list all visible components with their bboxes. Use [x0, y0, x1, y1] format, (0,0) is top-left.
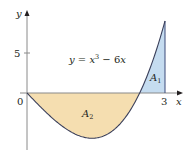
x-tick-label-0: 0	[17, 96, 23, 107]
y-tick-label-5: 5	[14, 48, 20, 59]
y-axis-label: y	[15, 8, 22, 19]
function-label: y = x3 − 6x	[68, 53, 126, 65]
y-axis-arrow-icon	[25, 10, 30, 16]
x-axis-label: x	[176, 96, 182, 107]
x-tick-label-3: 3	[161, 96, 167, 107]
area-plot: y 5 0 3 x y = x3 − 6x A1 A2	[0, 0, 191, 159]
x-axis-arrow-icon	[177, 91, 183, 96]
